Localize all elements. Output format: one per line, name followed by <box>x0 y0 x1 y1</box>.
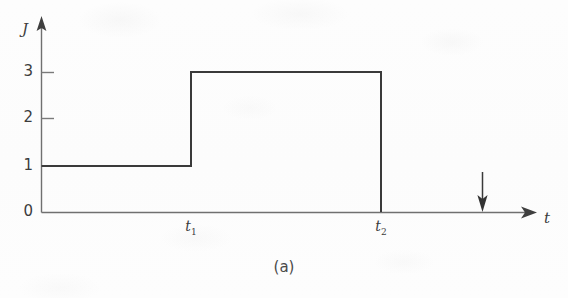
y-tick-label-0: 0 <box>17 202 33 220</box>
y-tick-label-3: 3 <box>17 62 33 80</box>
x-tick-label-t1-subscript: 1 <box>191 227 197 237</box>
figure-step-function: J t 3 2 1 0 t1 t2 (a) <box>0 0 568 298</box>
y-tick-label-2: 2 <box>17 108 33 126</box>
y-tick-label-1: 1 <box>17 156 33 174</box>
step-function-trace <box>42 72 382 212</box>
x-tick-label-t2: t2 <box>366 218 396 237</box>
x-tick-label-t1: t1 <box>176 218 206 237</box>
figure-caption: (a) <box>0 258 568 276</box>
x-tick-label-t2-subscript: 2 <box>381 227 387 237</box>
plot-canvas <box>0 0 568 298</box>
y-axis-label: J <box>22 20 28 38</box>
x-axis-label: t <box>544 209 550 227</box>
